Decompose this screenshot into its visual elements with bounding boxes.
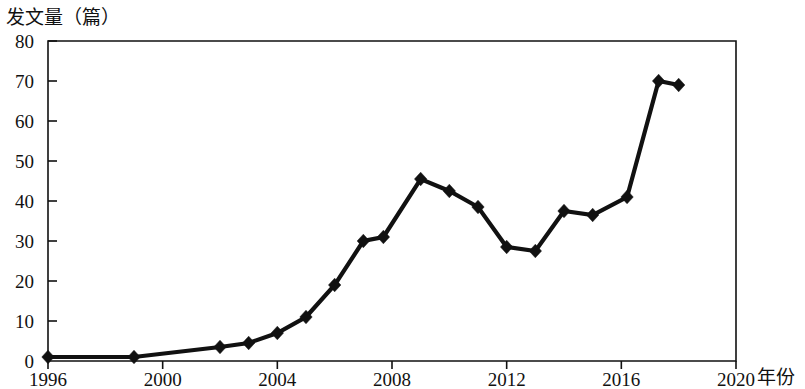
y-tick-label: 20	[15, 271, 34, 292]
x-tick-label: 2004	[258, 369, 297, 389]
y-axis-caption: 发文量（篇）	[6, 7, 120, 28]
publication-count-line-chart: 发文量（篇） 01020304050607080 199620002004200…	[0, 0, 805, 389]
y-tick-label: 80	[15, 31, 34, 52]
x-tick-label: 2000	[144, 369, 182, 389]
y-axis-tick-labels: 01020304050607080	[15, 31, 34, 372]
x-tick-label: 2008	[373, 369, 411, 389]
y-tick-label: 30	[15, 231, 34, 252]
x-tick-label: 2016	[602, 369, 640, 389]
x-tick-label: 1996	[29, 369, 67, 389]
y-tick-label: 50	[15, 151, 34, 172]
chart-canvas: 发文量（篇） 01020304050607080 199620002004200…	[0, 0, 805, 389]
x-tick-label: 2012	[488, 369, 526, 389]
y-tick-label: 70	[15, 71, 34, 92]
y-tick-label: 40	[15, 191, 34, 212]
x-axis-caption: 年份	[757, 367, 795, 388]
chart-background	[0, 0, 805, 389]
y-tick-label: 10	[15, 311, 34, 332]
y-tick-label: 60	[15, 111, 34, 132]
x-tick-label: 2020	[717, 369, 755, 389]
